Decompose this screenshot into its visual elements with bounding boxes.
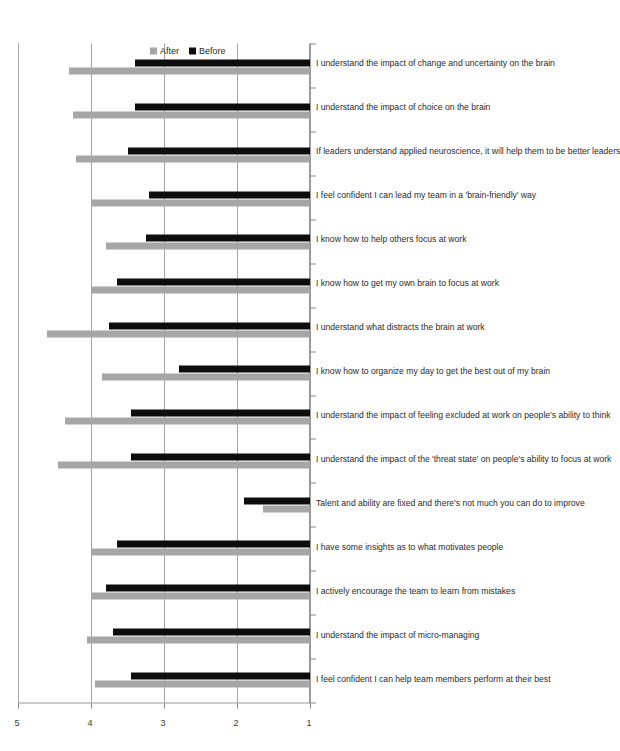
category-label: I know how to organize my day to get the…	[316, 366, 550, 375]
chart-legend: AfterBefore	[0, 5, 300, 45]
bar-after	[58, 461, 310, 468]
category-label: Talent and ability are fixed and there's…	[316, 498, 585, 507]
category-label: I understand the impact of feeling exclu…	[316, 410, 610, 419]
category-label: I actively encourage the team to learn f…	[316, 586, 515, 595]
bar-before	[149, 191, 310, 198]
category-tick	[310, 570, 316, 571]
bar-group	[18, 176, 310, 220]
axis-tick-2	[237, 703, 238, 708]
category-tick	[310, 702, 316, 703]
bar-before	[128, 147, 311, 154]
bar-group	[18, 570, 310, 614]
category-tick	[310, 175, 316, 176]
bar-group	[18, 351, 310, 395]
category-label: I understand what distracts the brain at…	[316, 322, 485, 331]
legend-item: Before	[189, 45, 226, 55]
bar-before	[109, 322, 310, 329]
category-tick	[310, 43, 316, 44]
category-label: I feel confident I can help team members…	[316, 674, 551, 683]
bar-before	[131, 409, 310, 416]
category-tick	[310, 307, 316, 308]
bar-after	[102, 374, 310, 381]
bar-groups	[18, 43, 310, 703]
bar-before	[117, 278, 310, 285]
category-tick	[310, 263, 316, 264]
category-tick	[310, 438, 316, 439]
axis-tick-label-3: 3	[160, 717, 165, 727]
axis-tick-3	[164, 703, 165, 708]
bar-before	[131, 672, 310, 679]
bar-before	[135, 59, 310, 66]
axis-tick-4	[91, 703, 92, 708]
legend-item: After	[150, 45, 179, 55]
bar-before	[135, 103, 310, 110]
bar-group	[18, 614, 310, 658]
bar-after	[91, 548, 310, 555]
category-tick	[310, 219, 316, 220]
bar-after	[91, 592, 310, 599]
bar-after	[263, 505, 310, 512]
category-tick	[310, 395, 316, 396]
bar-after	[76, 155, 310, 162]
category-tick	[310, 526, 316, 527]
category-tick	[310, 614, 316, 615]
bar-group	[18, 482, 310, 526]
bar-before	[117, 540, 310, 547]
legend-swatch-before	[189, 47, 196, 54]
bar-group	[18, 89, 310, 133]
category-label: I understand the impact of change and un…	[316, 58, 555, 67]
axis-tick-label-5: 5	[14, 717, 19, 727]
bar-after	[69, 67, 310, 74]
bar-group	[18, 307, 310, 351]
bar-before	[106, 584, 310, 591]
axis-tick-5	[18, 703, 19, 708]
category-label: I know how to get my own brain to focus …	[316, 278, 499, 287]
category-tick	[310, 658, 316, 659]
bar-after	[95, 680, 310, 687]
category-tick	[310, 351, 316, 352]
bar-before	[244, 497, 310, 504]
category-tick	[310, 482, 316, 483]
axis-tick-label-4: 4	[87, 717, 92, 727]
bar-group	[18, 439, 310, 483]
plot-area: 12345	[18, 43, 310, 703]
category-label: I have some insights as to what motivate…	[316, 542, 503, 551]
category-tick	[310, 131, 316, 132]
category-label: I understand the impact of the 'threat s…	[316, 454, 611, 463]
bar-before	[113, 628, 310, 635]
bar-after	[106, 242, 310, 249]
bar-group	[18, 132, 310, 176]
bar-group	[18, 220, 310, 264]
bar-after	[91, 286, 310, 293]
bar-after	[87, 636, 310, 643]
category-label: I understand the impact of micro-managin…	[316, 630, 479, 639]
bar-group	[18, 264, 310, 308]
axis-tick-label-1: 1	[306, 717, 311, 727]
bar-group	[18, 395, 310, 439]
axis-tick-label-2: 2	[233, 717, 238, 727]
bar-after	[91, 199, 310, 206]
legend-label: Before	[199, 45, 226, 55]
bar-group	[18, 657, 310, 701]
bar-after	[47, 330, 310, 337]
axis-tick-1	[310, 703, 311, 708]
bar-before	[146, 234, 310, 241]
category-label: I know how to help others focus at work	[316, 234, 466, 243]
bar-before	[131, 453, 310, 460]
category-label: I feel confident I can lead my team in a…	[316, 190, 536, 199]
category-tick	[310, 87, 316, 88]
category-label: I understand the impact of choice on the…	[316, 102, 490, 111]
bar-after	[65, 417, 310, 424]
bar-group	[18, 526, 310, 570]
legend-label: After	[160, 45, 179, 55]
category-label: If leaders understand applied neuroscien…	[316, 146, 620, 155]
bar-after	[73, 111, 310, 118]
bar-before	[179, 366, 310, 373]
legend-swatch-after	[150, 47, 157, 54]
